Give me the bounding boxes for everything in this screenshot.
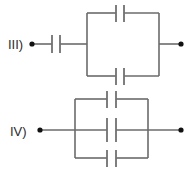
circuit-diagram-figure: III) xyxy=(0,0,196,174)
circuit-iv-middle-branch-capacitor xyxy=(107,118,116,142)
circuit-iii-wires xyxy=(32,13,181,76)
circuit-iii-label: III) xyxy=(8,37,23,52)
circuit-iv-top-branch-capacitor xyxy=(107,91,116,108)
circuit-iv-label: IV) xyxy=(10,124,27,139)
circuit-iv-bottom-branch-capacitor xyxy=(107,150,116,167)
circuit-iii-series-capacitor xyxy=(52,35,60,53)
circuit-iii-top-branch-capacitor xyxy=(116,5,124,22)
circuit-iii-bottom-branch-capacitor xyxy=(116,68,124,85)
circuit-iv-group: IV) xyxy=(10,91,184,167)
circuit-iv-wires xyxy=(40,99,181,158)
circuit-iii-left-terminal xyxy=(29,41,34,46)
circuit-diagram-canvas: III) xyxy=(0,0,196,174)
circuit-iii-group: III) xyxy=(8,5,184,85)
circuit-iv-left-terminal xyxy=(37,127,42,132)
circuit-iv-right-terminal xyxy=(178,127,183,132)
circuit-iii-right-terminal xyxy=(178,41,183,46)
